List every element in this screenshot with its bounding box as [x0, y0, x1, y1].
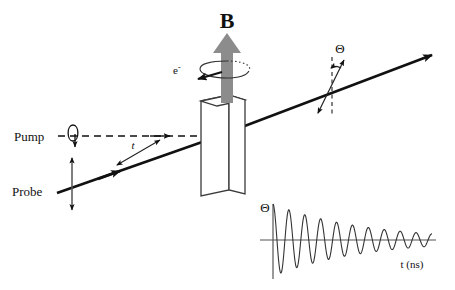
magnetic-field-label: B	[220, 8, 235, 33]
slab-front-face	[201, 95, 229, 196]
faraday-rotation-diagram: Pump Probe B e- t Θ Θ t (ns)	[0, 0, 455, 290]
plot-x-axis-label: t (ns)	[401, 258, 424, 271]
sample-slab	[201, 95, 245, 196]
electron-charge-superscript: -	[178, 63, 181, 72]
electron-label: e-	[173, 63, 181, 76]
slab-side-face	[229, 95, 245, 194]
faraday-rotation-angle-group	[318, 57, 344, 117]
delay-time-arrow	[117, 140, 160, 165]
probe-label: Probe	[12, 184, 43, 199]
probe-beam-direction-arrow	[98, 171, 120, 179]
delay-time-label: t	[131, 139, 135, 151]
pump-label: Pump	[14, 129, 44, 144]
diagram-canvas: Pump Probe B e- t Θ Θ t (ns)	[0, 0, 455, 290]
delay-time-indicator	[117, 140, 160, 165]
b-arrow-shape	[213, 33, 241, 103]
plot-y-axis-label: Θ	[260, 200, 269, 215]
magnetic-field-arrow	[213, 33, 241, 103]
probe-beam-outgoing	[242, 55, 432, 127]
rotation-angle-label: Θ	[335, 41, 344, 56]
